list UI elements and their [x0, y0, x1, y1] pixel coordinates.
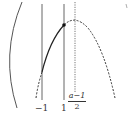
point-at-x1: [62, 23, 66, 27]
fraction-denominator: 2: [68, 102, 86, 111]
label-a-minus-1-over-2: a−1 2: [68, 92, 86, 111]
parabola-dashed-left: [36, 72, 42, 98]
fraction-numerator: a−1: [68, 92, 86, 102]
label-minus-1: −1: [35, 104, 48, 113]
label-1: 1: [61, 104, 67, 113]
left-arc: [10, 2, 22, 108]
parabola-dashed-right: [64, 20, 115, 98]
diagram: −1 1 a−1 2: [0, 0, 128, 122]
right-edge-mark: [126, 4, 127, 8]
parabola-solid-segment: [42, 25, 64, 72]
